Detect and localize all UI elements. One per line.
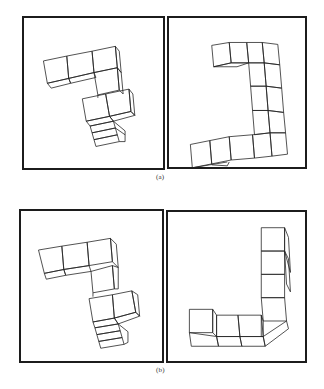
panel-b-right bbox=[166, 210, 307, 363]
cube-object-icon bbox=[168, 212, 305, 361]
cube-object-icon bbox=[21, 211, 162, 361]
cube-object-icon bbox=[24, 18, 163, 168]
panel-a-right bbox=[167, 16, 307, 169]
row-label-b: (b) bbox=[156, 366, 165, 374]
cube-object-icon bbox=[169, 18, 305, 167]
panel-b-left bbox=[19, 209, 164, 363]
row-label-a: (a) bbox=[156, 173, 164, 181]
panel-a-left bbox=[22, 16, 165, 170]
